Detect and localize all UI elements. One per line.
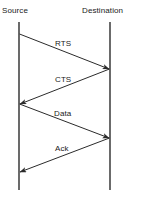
- message-label-rts: RTS: [55, 39, 71, 49]
- message-label-ack: Ack: [55, 144, 69, 154]
- message-label-cts: CTS: [55, 75, 71, 85]
- sequence-diagram: Source Destination RTS CTS Data Ack: [0, 0, 141, 202]
- lifeline-label-destination: Destination: [82, 6, 123, 16]
- diagram-canvas: [0, 0, 141, 202]
- message-label-data: Data: [54, 109, 71, 119]
- lifeline-label-source: Source: [2, 6, 28, 16]
